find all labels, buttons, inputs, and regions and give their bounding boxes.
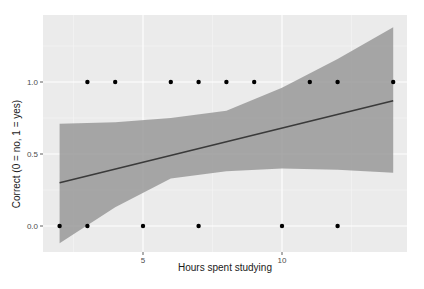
- x-tick-label: 5: [141, 256, 146, 265]
- data-point: [113, 80, 117, 84]
- data-point: [169, 80, 173, 84]
- y-tick-label: 1.0: [27, 78, 39, 87]
- data-point: [252, 80, 256, 84]
- y-tick-label: 0.5: [27, 150, 39, 159]
- data-point: [335, 80, 339, 84]
- y-axis-ticks: 0.00.51.0: [27, 78, 43, 231]
- data-point: [141, 224, 145, 228]
- data-point: [85, 80, 89, 84]
- data-point: [335, 224, 339, 228]
- data-point: [280, 224, 284, 228]
- x-axis-title: Hours spent studying: [178, 262, 272, 273]
- data-point: [391, 80, 395, 84]
- data-point: [57, 224, 61, 228]
- data-point: [224, 80, 228, 84]
- x-tick-label: 10: [278, 256, 287, 265]
- data-point: [196, 80, 200, 84]
- y-axis-title: Correct (0 = no, 1 = yes): [11, 100, 22, 208]
- logistic-scatter-chart: 0.00.51.0 510 Hours spent studying Corre…: [0, 0, 424, 289]
- y-tick-label: 0.0: [27, 222, 39, 231]
- data-point: [85, 224, 89, 228]
- data-point: [196, 224, 200, 228]
- data-point: [308, 80, 312, 84]
